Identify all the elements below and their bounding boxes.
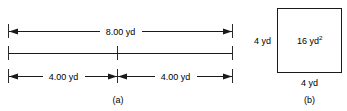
dimension-4yd-left: 4.00 yd (9, 70, 117, 83)
arrowhead-right (223, 29, 232, 35)
arrowhead-left (9, 29, 18, 35)
caption-b: (b) (304, 95, 315, 105)
panel-a: 8.00 yd 4.00 yd 4.00 yd (9, 24, 233, 105)
square-side-bottom-label: 4 yd (301, 78, 318, 88)
dimension-8yd-label: 8.00 yd (106, 27, 136, 37)
arrowhead-right (223, 74, 232, 80)
panel-b: 16 yd2 4 yd 4 yd (b) (254, 9, 342, 106)
dimension-4yd-right: 4.00 yd (118, 70, 232, 83)
arrowhead-left (118, 74, 127, 80)
caption-a: (a) (113, 95, 124, 105)
dimension-figure: 8.00 yd 4.00 yd 4.00 yd (0, 0, 347, 111)
square-side-left-label: 4 yd (254, 36, 271, 46)
arrowhead-right (108, 74, 117, 80)
dimension-4yd-right-label: 4.00 yd (161, 72, 191, 82)
dimension-8yd: 8.00 yd (9, 25, 232, 38)
square-area-value: 16 yd (297, 36, 319, 46)
square-area-label: 16 yd2 (297, 34, 323, 46)
arrowhead-left (9, 74, 18, 80)
square-area-exponent: 2 (319, 34, 323, 41)
dimension-4yd-left-label: 4.00 yd (49, 72, 79, 82)
